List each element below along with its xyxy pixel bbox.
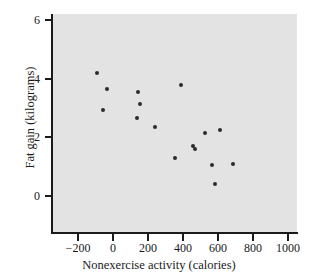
x-tick-mark [182, 234, 184, 241]
y-tick-label: 6 [16, 14, 40, 26]
x-tick-mark [217, 234, 219, 241]
x-tick-mark [112, 234, 114, 241]
x-tick-mark [77, 234, 79, 241]
scatter-point [136, 90, 140, 94]
scatter-point [138, 102, 142, 106]
y-tick-label: 4 [16, 73, 40, 85]
y-axis-title: Fat gain (kilograms) [23, 18, 38, 218]
scatter-point [101, 108, 105, 112]
x-tick-mark [252, 234, 254, 241]
scatter-point [218, 128, 222, 132]
x-axis-line [51, 232, 298, 234]
scatter-point [173, 156, 177, 160]
scatter-point [95, 71, 99, 75]
x-axis-title: Nonexercise activity (calories) [0, 258, 318, 273]
scatter-point [179, 83, 183, 87]
x-tick-mark [287, 234, 289, 241]
y-tick-mark [45, 78, 52, 80]
y-axis-line [51, 14, 53, 233]
plot-panel [52, 14, 297, 232]
y-tick-mark [45, 136, 52, 138]
scatter-point [213, 182, 217, 186]
scatter-point [203, 131, 207, 135]
x-tick-mark [147, 234, 149, 241]
y-tick-mark [45, 195, 52, 197]
x-tick-label: 1000 [266, 242, 310, 254]
scatter-point [231, 162, 235, 166]
y-tick-label: 2 [16, 131, 40, 143]
y-tick-label: 0 [16, 190, 40, 202]
scatter-plot-figure: Nonexercise activity (calories) Fat gain… [0, 0, 318, 280]
y-tick-mark [45, 19, 52, 21]
